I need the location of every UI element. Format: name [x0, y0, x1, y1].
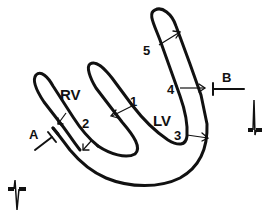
rv-outer-wall — [53, 128, 58, 134]
label-lv: LV — [153, 112, 171, 129]
heart-ventricle-diagram: RV LV 1 2 3 4 5 A B — [0, 0, 267, 223]
segment-3-arrow — [187, 133, 208, 141]
segment-1-arrow — [111, 106, 132, 118]
rv-cavity-wall — [34, 73, 98, 146]
segment-2-arrow-lower — [83, 140, 92, 150]
segment-5-arrow — [159, 31, 180, 45]
ecg-complex-icon-right — [248, 100, 262, 135]
label-marker-b: B — [222, 70, 231, 85]
label-segment-4: 4 — [167, 82, 175, 97]
label-segment-3: 3 — [174, 128, 181, 143]
label-rv: RV — [60, 86, 81, 103]
septum-wall — [61, 124, 80, 150]
segment-4-arrow — [180, 84, 205, 92]
ecg-complex-icon-left — [8, 180, 26, 210]
label-marker-a: A — [29, 127, 39, 142]
segment-2-arrow-upper — [58, 113, 66, 124]
label-segment-5: 5 — [143, 43, 150, 58]
label-segment-2: 2 — [82, 116, 89, 131]
label-segment-1: 1 — [130, 94, 137, 109]
